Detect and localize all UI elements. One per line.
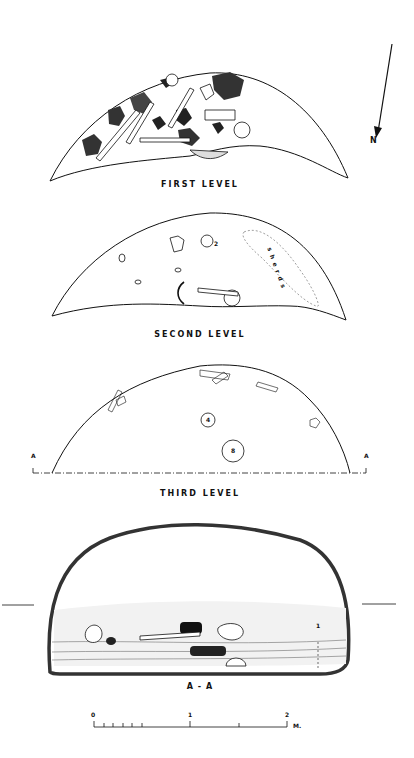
scale-bar [94, 721, 287, 727]
north-label: N [370, 136, 379, 145]
section-title: A - A [180, 682, 220, 691]
find-number: 4 [206, 416, 210, 423]
third-level-plan [33, 365, 366, 473]
second-level-plan [52, 213, 346, 320]
scale-tick-label: 2 [285, 711, 289, 718]
first-level-plan [50, 72, 348, 181]
first-level-title: FIRST LEVEL [150, 180, 250, 189]
excavation-plan-drawing [0, 0, 414, 758]
find-number: 2 [214, 240, 218, 247]
section-marker-right: A [364, 452, 369, 459]
scale-unit: M. [293, 722, 301, 729]
layer-number: 1 [316, 622, 320, 629]
scale-tick-label: 0 [91, 711, 95, 718]
second-level-title: SECOND LEVEL [140, 330, 260, 339]
section-a-a [2, 525, 396, 674]
north-arrow-icon [374, 44, 392, 138]
scale-tick-label: 1 [188, 711, 192, 718]
section-marker-left: A [31, 452, 36, 459]
third-level-title: THIRD LEVEL [150, 489, 250, 498]
find-number: 8 [231, 447, 235, 454]
